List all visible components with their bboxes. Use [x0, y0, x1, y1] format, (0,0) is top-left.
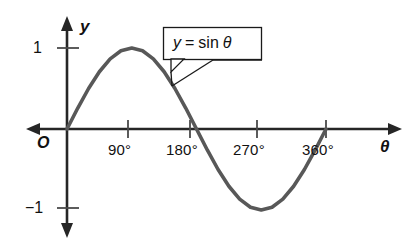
x-tick-label-180: 180° — [166, 142, 198, 157]
x-tick-label-360: 360° — [302, 142, 334, 157]
callout-function: sin — [198, 34, 218, 51]
y-tick-label-1: 1 — [33, 40, 42, 56]
origin-label: O — [37, 135, 49, 151]
callout-variable: y — [173, 34, 181, 51]
y-axis-up-arrow-icon — [61, 16, 73, 31]
x-tick-label-90: 90° — [108, 142, 131, 157]
y-axis-label: y — [80, 18, 89, 35]
callout-equation-text: y=sinθ — [173, 35, 231, 51]
callout-argument: θ — [223, 34, 232, 51]
x-axis-right-arrow-icon — [388, 123, 402, 135]
callout-operator: = — [185, 34, 194, 51]
y-tick-label-minus-1: −1 — [25, 200, 43, 216]
x-tick-label-270: 270° — [233, 142, 265, 157]
callout-tail — [171, 59, 184, 72]
sine-graph-figure: y=sinθ y θ O 1 −1 90° 180° 270° 360° — [0, 0, 410, 245]
x-axis-label: θ — [380, 138, 389, 155]
y-axis-down-arrow-icon — [61, 223, 73, 238]
